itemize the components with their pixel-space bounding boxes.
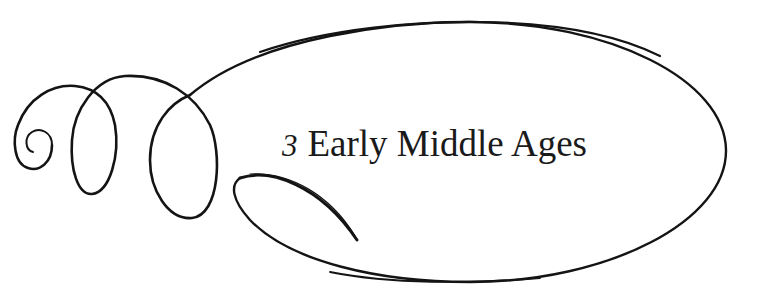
chapter-heading: 3Early Middle Ages xyxy=(282,122,587,165)
inner-sweep xyxy=(240,175,357,240)
chapter-title: Early Middle Ages xyxy=(308,123,588,164)
chapter-number: 3 xyxy=(282,128,298,163)
